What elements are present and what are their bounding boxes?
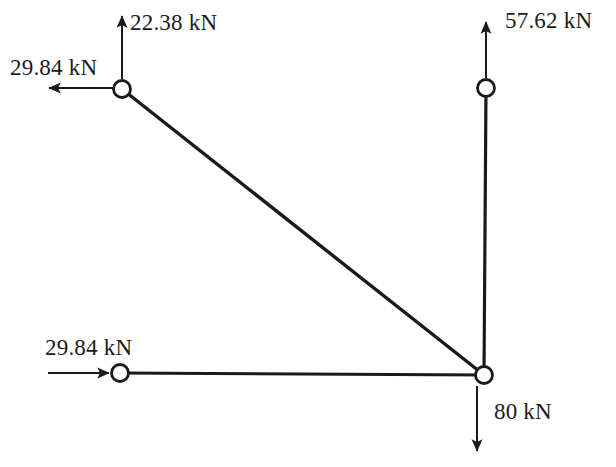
force-label-top-left-up: 22.38 kN xyxy=(130,10,217,35)
force-label-top-left-left: 29.84 kN xyxy=(10,55,97,80)
truss-force-diagram: 22.38 kN 29.84 kN 57.62 kN 29.84 kN 80 k… xyxy=(0,0,616,467)
joint-bottom-left xyxy=(112,365,129,382)
members-group xyxy=(120,88,486,375)
force-label-bottom-left-right: 29.84 kN xyxy=(45,335,132,360)
force-label-bottom-right-down: 80 kN xyxy=(494,399,552,424)
member-vertical-right xyxy=(484,88,486,375)
force-arrows-group xyxy=(48,16,486,451)
joint-top-right xyxy=(478,80,495,97)
force-labels-group: 22.38 kN 29.84 kN 57.62 kN 29.84 kN 80 k… xyxy=(10,8,592,424)
joint-top-left xyxy=(114,81,131,98)
force-label-top-right-up: 57.62 kN xyxy=(505,8,592,33)
member-bottom-chord xyxy=(120,373,484,375)
member-diagonal xyxy=(122,89,484,375)
diagram-canvas: 22.38 kN 29.84 kN 57.62 kN 29.84 kN 80 k… xyxy=(0,0,616,467)
joint-bottom-right xyxy=(476,367,493,384)
